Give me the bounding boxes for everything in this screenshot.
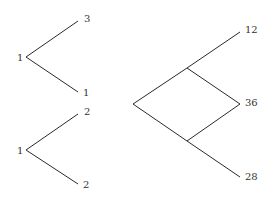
tree-b: 1 2 2 <box>17 106 90 190</box>
tree-b-root-label: 1 <box>17 145 23 156</box>
lattice-bottom-label: 28 <box>245 171 258 182</box>
lattice-edge-root-up <box>133 68 187 104</box>
lattice-top-label: 12 <box>245 24 258 35</box>
tree-diagrams: 1 3 1 1 2 2 12 36 28 <box>0 0 271 200</box>
lattice-middle-label: 36 <box>245 97 258 108</box>
lattice: 12 36 28 <box>133 24 258 182</box>
tree-b-bottom-label: 2 <box>83 179 89 190</box>
tree-a-bottom-label: 1 <box>83 87 89 98</box>
tree-b-upper-branch <box>26 114 78 150</box>
lattice-edge-up-up <box>187 32 240 68</box>
tree-b-top-label: 2 <box>84 106 90 117</box>
tree-a: 1 3 1 <box>17 13 90 98</box>
tree-a-top-label: 3 <box>84 13 90 24</box>
tree-a-upper-branch <box>26 21 78 57</box>
lattice-edge-root-down <box>133 104 187 141</box>
tree-a-root-label: 1 <box>17 52 23 63</box>
tree-a-lower-branch <box>26 57 78 92</box>
lattice-edge-down-up <box>187 104 240 141</box>
tree-b-lower-branch <box>26 150 78 184</box>
lattice-edge-down-down <box>187 141 240 177</box>
lattice-edge-up-down <box>187 68 240 104</box>
